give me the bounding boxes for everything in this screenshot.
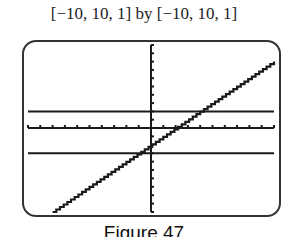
- graph-line: [53, 62, 274, 212]
- figure-caption: Figure 47: [0, 222, 288, 237]
- graph-plot: [0, 0, 288, 237]
- axes: [28, 45, 274, 212]
